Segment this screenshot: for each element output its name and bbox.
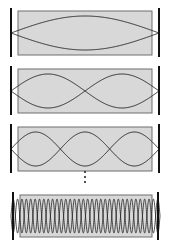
- standing-wave-panel-mode-1: [0, 6, 170, 59]
- ellipsis-dot: [84, 176, 86, 178]
- vertical-ellipsis-icon: [83, 171, 87, 183]
- figure-title: Standing wave modes in a one-dimensional…: [0, 0, 1, 1]
- standing-wave-modes-figure: Standing wave modes in a one-dimensional…: [0, 0, 170, 243]
- ellipsis-dot: [84, 171, 86, 173]
- cavity-box: [18, 127, 152, 171]
- standing-wave-panel-mode-3: [0, 122, 170, 175]
- standing-wave-panel-mode-high: [0, 190, 170, 242]
- standing-wave-panel-mode-2: [0, 64, 170, 117]
- ellipsis-dot: [84, 181, 86, 183]
- cavity-box: [18, 11, 152, 55]
